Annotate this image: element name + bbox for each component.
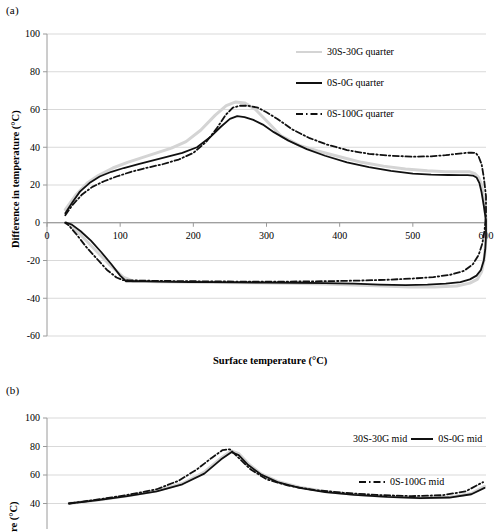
y-tick-label: 40 (30, 142, 40, 153)
x-tick-label: 200 (186, 230, 201, 241)
legend-label: 0S-0G mid (437, 434, 482, 444)
x-tick-label: 0 (45, 230, 50, 241)
legend-item-0s100g-quarter: 0S-100G quarter (296, 109, 394, 119)
x-tick-label: 100 (113, 230, 128, 241)
y-tick-label: 60 (30, 469, 40, 480)
y-tick-label: -60 (27, 330, 40, 341)
panel-b-legend: 30S-30G mid 0S-0G mid 0S-100G mid (352, 434, 482, 487)
legend-label: 0S-0G quarter (326, 78, 384, 88)
legend-item-30s30g-quarter: 30S-30G quarter (296, 47, 394, 57)
series-line (65, 116, 486, 285)
y-tick-label: -20 (27, 255, 40, 266)
x-tick-label: 400 (332, 230, 347, 241)
legend-label: 30S-30G mid (352, 434, 407, 444)
legend-label: 30S-30G quarter (326, 47, 394, 57)
x-tick-label: 500 (405, 230, 420, 241)
panel-a: (a) Difference in temperature (°C) Surfa… (0, 0, 494, 380)
legend-label: 0S-100G mid (389, 477, 444, 487)
legend-item-0s100g-mid: 0S-100G mid (352, 477, 482, 487)
y-tick-label: 100 (25, 412, 40, 423)
legend-label: 0S-100G quarter (326, 109, 394, 119)
y-tick-label: 0 (35, 217, 40, 228)
legend-item-30s30g-mid: 30S-30G mid 0S-0G mid (352, 434, 482, 444)
series-line (65, 102, 486, 287)
panel-a-legend: 30S-30G quarter 0S-0G quarter 0S-100G qu… (296, 47, 394, 119)
y-tick-label: 80 (30, 66, 40, 77)
y-tick-label: -40 (27, 293, 40, 304)
panel-b: (b) re (°C) 406080100 30S-30G mid 0S-0G … (0, 380, 494, 529)
panel-a-plot: -60-40-200204060801000100200300400500600 (0, 0, 494, 380)
y-tick-label: 80 (30, 441, 40, 452)
y-tick-label: 40 (30, 498, 40, 509)
y-tick-label: 20 (30, 179, 40, 190)
y-tick-label: 100 (25, 28, 40, 39)
legend-item-0s0g-quarter: 0S-0G quarter (296, 78, 394, 88)
y-tick-label: 60 (30, 104, 40, 115)
x-tick-label: 300 (259, 230, 274, 241)
